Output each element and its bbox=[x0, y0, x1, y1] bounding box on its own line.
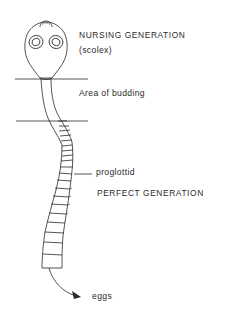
eggs-label: eggs bbox=[92, 291, 112, 301]
area-of-budding-label: Area of budding bbox=[79, 88, 145, 98]
scolex-head bbox=[25, 21, 67, 80]
nursing-generation-label: NURSING GENERATION bbox=[79, 30, 186, 40]
eggs-arrow bbox=[49, 268, 81, 299]
tapeworm-drawing bbox=[0, 0, 237, 315]
scolex-label: (scolex) bbox=[79, 45, 112, 55]
proglottid-label: proglottid bbox=[96, 167, 135, 177]
proglottid-segments bbox=[42, 121, 73, 268]
perfect-generation-label: PERFECT GENERATION bbox=[97, 188, 204, 198]
